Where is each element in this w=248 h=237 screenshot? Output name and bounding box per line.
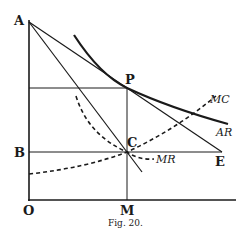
label-mc: MC (209, 93, 230, 106)
label-p: P (125, 72, 135, 87)
mc-curve (29, 96, 216, 174)
label-o: O (23, 203, 34, 218)
mr-curve (76, 96, 154, 159)
label-b: B (14, 145, 25, 160)
ar-curve (74, 35, 228, 124)
label-c: C (127, 135, 137, 150)
label-mr: MR (155, 153, 176, 166)
label-m: M (120, 203, 134, 218)
label-ar: AR (215, 126, 232, 139)
economics-diagram: A B O M P C E MC AR MR Fig. 20. (0, 0, 248, 237)
label-e: E (215, 154, 225, 169)
figure-caption: Fig. 20. (108, 218, 143, 228)
label-a: A (13, 13, 25, 28)
line-ac (29, 22, 142, 172)
